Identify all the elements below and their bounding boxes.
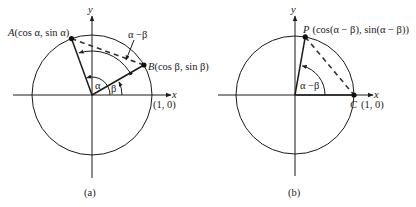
angle-arc-alpha-minus-beta	[79, 51, 129, 71]
unit-point-label-a: (1, 0)	[153, 99, 176, 111]
angle-label-alpha-minus-beta-b: α −β	[300, 80, 319, 91]
unit-circle-figure: x y A(cos α, sin α) B(cos β, sin β) α β …	[0, 0, 416, 207]
point-b-label: B(cos β, sin β)	[148, 61, 209, 73]
point-p	[303, 34, 308, 39]
panel-b: x y P(cos(α − β), sin(α − β)) C(1, 0) α …	[218, 4, 409, 199]
angle-label-beta: β	[111, 83, 116, 94]
angle-label-alpha: α	[95, 80, 101, 91]
point-c	[351, 92, 356, 97]
caption-a: (a)	[84, 187, 96, 199]
y-axis-label-a: y	[87, 4, 93, 15]
panel-a: x y A(cos α, sin α) B(cos β, sin β) α β …	[7, 4, 209, 199]
point-b	[141, 62, 146, 67]
caption-b: (b)	[288, 187, 301, 199]
point-a	[69, 36, 74, 41]
y-axis-label-b: y	[290, 4, 296, 15]
point-a-label: A(cos α, sin α)	[7, 27, 70, 39]
angle-label-alpha-minus-beta-a: α −β	[128, 29, 147, 40]
angle-arc-beta	[119, 82, 122, 95]
radius-oa	[71, 39, 92, 95]
point-p-label: P(cos(α − β), sin(α − β))	[302, 24, 409, 36]
point-c-label: C(1, 0)	[350, 99, 384, 111]
leader-line-alpha-minus-beta	[126, 40, 134, 60]
